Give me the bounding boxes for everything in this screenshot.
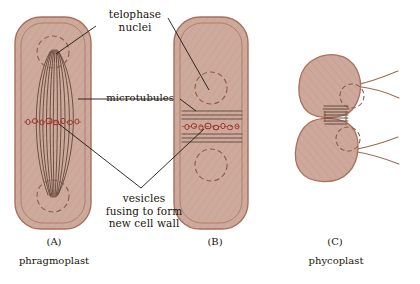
label-vesicles-fusing: vesicles fusing to form new cell wall bbox=[96, 192, 192, 230]
label-microtubules: microtubules bbox=[96, 92, 174, 105]
caption-panel-c-letter: (C) bbox=[300, 236, 370, 247]
label-telophase-nuclei: telophase nuclei bbox=[98, 8, 172, 33]
panel-c-cell bbox=[295, 55, 399, 182]
caption-panel-b-letter: (B) bbox=[180, 236, 250, 247]
cell-division-diagram: telophase nuclei microtubules vesicles f… bbox=[0, 0, 420, 284]
panel-a-cell bbox=[15, 17, 91, 229]
cell-lobe-c-lower bbox=[295, 118, 358, 181]
caption-panel-c-name: phycoplast bbox=[284, 255, 388, 266]
caption-panel-a-letter: (A) bbox=[12, 236, 96, 247]
microtubule-bundle-c bbox=[323, 106, 349, 124]
flagella-lower bbox=[352, 137, 399, 164]
flagella-upper bbox=[355, 71, 399, 98]
caption-panel-a-name: phragmoplast bbox=[2, 255, 106, 266]
